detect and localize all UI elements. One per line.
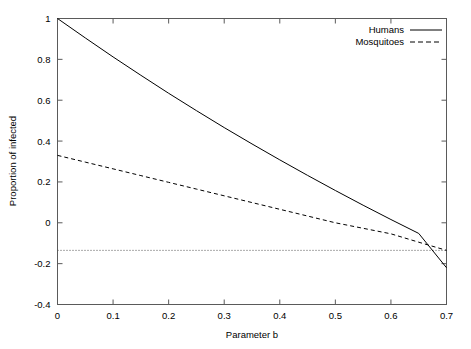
x-axis-title: Parameter b	[226, 329, 278, 340]
y-tick-label: -0.4	[34, 299, 50, 310]
y-axis-title: Proportion of infected	[7, 116, 18, 206]
x-tick-label: 0.4	[273, 310, 286, 321]
x-tick-label: 0.6	[384, 310, 397, 321]
legend-label-mosquitoes: Mosquitoes	[355, 36, 404, 47]
x-tick-label: 0.1	[106, 310, 119, 321]
figure-background	[0, 0, 471, 349]
y-tick-label: 0.6	[37, 95, 50, 106]
y-tick-label: -0.2	[34, 258, 50, 269]
y-tick-label: 0.8	[37, 54, 50, 65]
legend-label-humans: Humans	[369, 24, 405, 35]
x-tick-label: 0.2	[162, 310, 175, 321]
chart-figure: 10.80.60.40.20-0.2-0.4 00.10.20.30.40.50…	[0, 0, 471, 349]
x-tick-label: 0.3	[218, 310, 231, 321]
y-tick-label: 0.4	[37, 136, 50, 147]
y-tick-label: 0.2	[37, 176, 50, 187]
plot-canvas: 10.80.60.40.20-0.2-0.4 00.10.20.30.40.50…	[0, 0, 471, 349]
x-tick-label: 0.5	[329, 310, 342, 321]
x-tick-label: 0	[55, 310, 60, 321]
y-tick-label: 1	[45, 13, 50, 24]
y-tick-label: 0	[45, 217, 50, 228]
x-tick-label: 0.7	[440, 310, 453, 321]
